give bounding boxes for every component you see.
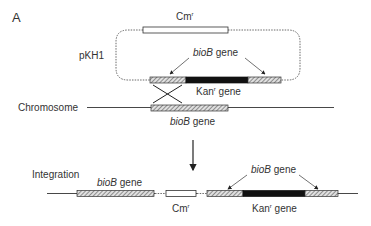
integration-biob-right-label: bioB gene — [251, 164, 296, 175]
integration-biob-left-label: bioB gene — [97, 177, 142, 188]
crossover-x — [153, 85, 182, 103]
arrow-biob-right — [245, 58, 265, 74]
plasmid-pkh1: Cmr pKH1 bioB gene Kanr gene — [79, 11, 300, 97]
plasmid-backbone-right — [228, 30, 300, 80]
integration-cm-label: Cmr — [172, 203, 190, 214]
panel-label: A — [12, 10, 21, 25]
integration-biob-left — [77, 191, 154, 197]
integration-diagram: A Cmr pKH1 bioB gene Kanr gene Chromosom… — [0, 0, 371, 226]
cm-resistance-box — [143, 27, 228, 33]
arrow-biob-left — [170, 58, 189, 74]
plasmid-biob-label: bioB gene — [193, 47, 238, 58]
cm-label: Cmr — [176, 11, 194, 22]
chromosome-biob — [151, 105, 228, 111]
integration-result: Integration bioB gene Cmr bioB gene Kanr… — [32, 164, 358, 214]
plasmid-biob-right — [248, 77, 281, 83]
integration-cm-box — [166, 191, 196, 197]
chromosome-label: Chromosome — [18, 102, 78, 113]
plasmid-kan-gene — [186, 77, 248, 83]
integration-kan-label: Kanr gene — [252, 203, 297, 214]
plasmid-name: pKH1 — [79, 50, 104, 61]
integration-biob-right-a — [207, 191, 243, 197]
arrow-integration-biob-right — [299, 175, 318, 189]
integration-label: Integration — [32, 169, 79, 180]
integration-kan-gene — [243, 191, 305, 197]
plasmid-backbone-left — [116, 30, 150, 80]
plasmid-kan-label: Kanr gene — [196, 86, 241, 97]
chromosome-biob-label: bioB gene — [170, 116, 215, 127]
integration-biob-right-b — [305, 191, 338, 197]
plasmid-biob-left — [150, 77, 186, 83]
arrow-integration-biob-left — [228, 175, 247, 189]
chromosome: Chromosome bioB gene — [18, 102, 334, 127]
